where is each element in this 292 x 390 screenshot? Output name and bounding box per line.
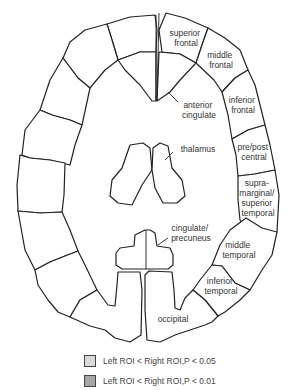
legend-item-p001: Left ROI < Right ROI,P < 0.01	[84, 373, 216, 389]
legend-label: Left ROI < Right ROI,P < 0.01	[103, 376, 216, 386]
left-supramarginal-region	[17, 155, 65, 213]
right-anterior-cingulate-region	[157, 52, 196, 101]
anterior-cingulate-leader	[168, 92, 178, 102]
label-inferior-frontal: inferior frontal	[229, 95, 257, 115]
left-anterior-cingulate-region	[118, 52, 156, 101]
label-supramarginal: supra- marginal/ superior temporal	[239, 178, 276, 218]
left-thalamus-region	[110, 143, 152, 205]
cingulate-precuneus-leader	[158, 238, 168, 245]
label-middle-temporal: middle temporal	[222, 240, 255, 260]
label-occipital: occipital	[158, 314, 189, 324]
legend: Left ROI < Right ROI,P < 0.05 Left ROI <…	[84, 353, 216, 390]
label-pre-post-central: pre/post central	[237, 142, 270, 162]
legend-label: Left ROI < Right ROI,P < 0.05	[103, 356, 216, 366]
cingulate-precuneus-region	[116, 230, 173, 269]
label-superior-frontal: superior frontal	[169, 28, 202, 48]
label-thalamus: thalamus	[181, 144, 216, 154]
legend-item-p005: Left ROI < Right ROI,P < 0.05	[84, 353, 216, 369]
legend-swatch-light	[84, 355, 96, 367]
label-middle-frontal: middle frontal	[207, 50, 234, 70]
label-anterior-cingulate: anterior cingulate	[182, 100, 216, 120]
label-cingulate-precuneus: cingulate/ precuneus	[171, 223, 211, 243]
legend-swatch-dark	[84, 375, 96, 387]
label-inferior-temporal: inferior temporal	[204, 276, 237, 296]
brain-roi-diagram: superior frontal middle frontal inferior…	[0, 0, 292, 350]
